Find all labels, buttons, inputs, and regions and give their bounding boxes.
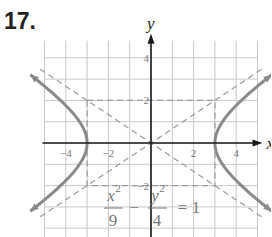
x-tick-label: 2	[191, 147, 197, 159]
eq-numerator-x: x	[106, 186, 115, 205]
y-tick-label: 2	[144, 94, 150, 106]
x-axis-label: x	[266, 134, 272, 153]
y-tick-label: 4	[144, 52, 150, 64]
y-axis-label: y	[145, 14, 155, 33]
x-tick-label: −2	[103, 147, 115, 159]
eq-numerator-y: y	[149, 186, 159, 205]
hyperbola-graph: xy−4−22442−2 x29−y24= 1	[0, 0, 271, 237]
eq-exp: 2	[115, 182, 121, 194]
x-tick-label: 4	[233, 147, 239, 159]
y-tick-label: −2	[137, 180, 149, 192]
eq-denominator-4: 4	[153, 211, 162, 230]
eq-exp: 2	[159, 182, 165, 194]
eq-denominator-9: 9	[109, 211, 118, 230]
eq-rhs: = 1	[178, 198, 200, 217]
equation-label: x29−y24= 1	[104, 182, 200, 230]
x-tick-label: −4	[60, 147, 72, 159]
eq-minus: −	[129, 198, 139, 217]
y-axis-arrow-icon	[148, 34, 155, 44]
